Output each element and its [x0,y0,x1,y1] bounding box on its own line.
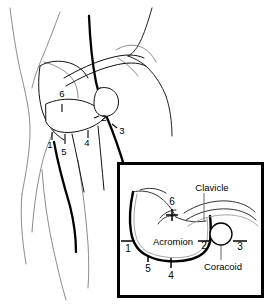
main-portal-number-5: 5 [61,146,66,157]
contralateral-outline [116,8,172,136]
arm-shadow-line [54,142,76,252]
main-portal-number-1: 1 [47,139,52,150]
acromion-label: Acromion [153,236,193,247]
inset-portal-number-6: 6 [169,196,175,207]
coracoid-circle [210,223,232,245]
inset-portal-number-1: 1 [125,243,131,254]
body-outline-group [10,8,89,300]
main-portal-number-2: 2 [101,112,106,123]
main-portal-number-4: 4 [84,137,89,148]
main-portal-number-6: 6 [59,88,64,99]
inset-portal-number-3: 3 [237,241,243,252]
inset-frame [119,164,263,297]
inset-portal-number-4: 4 [168,270,174,281]
main-portal-number-3: 3 [119,125,124,136]
inset-portal-number-5: 5 [145,263,151,274]
coracoid-label: Coracoid [204,261,242,272]
inset-portal-number-2: 2 [201,240,207,251]
clavicle-label: Clavicle [195,182,228,193]
shoulder-portal-diagram: 1 2 3 4 5 6 [0,0,270,307]
